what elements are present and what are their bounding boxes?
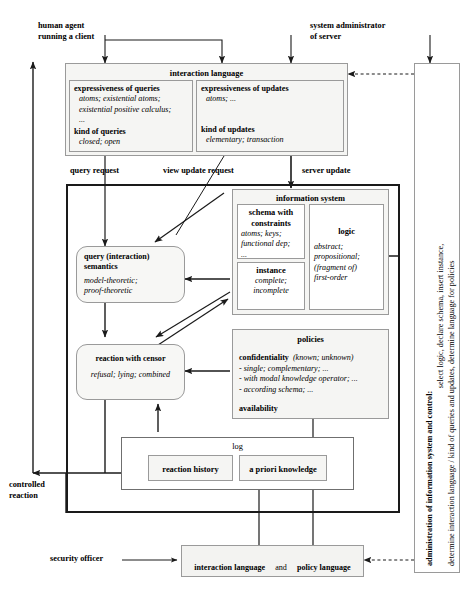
logic-box: logic abstract; propositional; (fragment… (309, 204, 384, 310)
logic-title: logic (314, 207, 379, 237)
instance-title: instance (241, 265, 301, 276)
label-system-administrator: system administrator of server (310, 21, 440, 42)
schema-title: schema with constraints (241, 207, 301, 229)
expressiveness-queries-heading: expressiveness of queries (74, 84, 188, 94)
label-query-request: query request (70, 166, 160, 177)
query-semantics-detail: model-theoretic; proof-theoretic (84, 276, 177, 297)
admin-line2: select logic, declare schema, insert ins… (435, 66, 446, 566)
admin-heading: administration of information system and… (424, 66, 435, 566)
policies-title: policies (239, 334, 382, 345)
confidentiality-paren: (known; unknown) (293, 353, 353, 362)
policy-item-1: - with modal knowledge operator; ... (239, 374, 382, 384)
expressiveness-updates-box: expressiveness of updates atoms; ... kin… (196, 80, 344, 152)
label-view-update-request: view update request (163, 166, 273, 177)
a-priori-knowledge-label: a priori knowledge (240, 456, 326, 475)
reaction-history-box: reaction history (148, 455, 233, 481)
expressiveness-queries-box: expressiveness of queries atoms; existen… (69, 80, 193, 152)
bottom-policy-language: policy language (297, 563, 351, 572)
instance-detail: complete; incomplete (241, 276, 301, 297)
label-human-agent: human agent running a client (38, 21, 128, 42)
kind-of-updates-detail: elementary; transaction (201, 135, 339, 145)
schema-with-constraints-box: schema with constraints atoms; keys; fun… (237, 204, 305, 259)
bottom-interaction-language: interaction language (194, 563, 265, 572)
policy-item-0: - single; complementary; ... (239, 364, 382, 374)
admin-line3: determine interaction language / kind of… (446, 66, 457, 566)
a-priori-knowledge-box: a priori knowledge (239, 455, 327, 481)
expressiveness-updates-heading: expressiveness of updates (201, 84, 339, 94)
expressiveness-updates-detail: atoms; ... (201, 94, 339, 104)
reaction-censor-title: reaction with censor (83, 354, 178, 364)
logic-detail: abstract; propositional; (fragment of) f… (314, 237, 379, 284)
reaction-censor-detail: refusal; lying; combined (83, 370, 178, 380)
confidentiality-label: confidentiality (239, 353, 289, 362)
label-security-officer: security officer (50, 554, 130, 565)
label-server-update: server update (302, 166, 382, 177)
bottom-and: and (269, 563, 293, 572)
reaction-with-censor-box: reaction with censor refusal; lying; com… (76, 344, 185, 400)
log-title: log (122, 438, 353, 452)
availability-label: availability (239, 404, 382, 414)
schema-detail: atoms; keys; functional dep; ... (241, 229, 301, 260)
query-semantics-box: query (interaction) semantics model-theo… (76, 246, 185, 303)
instance-box: instance complete; incomplete (237, 262, 305, 310)
kind-of-queries-detail: closed; open (74, 137, 188, 147)
policies-box: policies confidentiality (known; unknown… (232, 329, 389, 419)
expressiveness-queries-detail: atoms; existential atoms; existential po… (74, 94, 188, 125)
query-semantics-title: query (interaction) semantics (84, 252, 177, 273)
policy-item-2: - according schema; ... (239, 385, 382, 395)
admin-panel-text: administration of information system and… (424, 66, 458, 566)
kind-of-queries-heading: kind of queries (74, 127, 188, 137)
arrow-human-agent-branch (105, 40, 222, 63)
interaction-language-title: interaction language (66, 64, 347, 79)
kind-of-updates-heading: kind of updates (201, 125, 339, 135)
diagram-canvas: human agent running a client system admi… (0, 0, 475, 598)
reaction-history-label: reaction history (149, 456, 232, 475)
bottom-language-bar: interaction language and policy language (181, 545, 364, 577)
information-system-title: information system (233, 190, 388, 204)
